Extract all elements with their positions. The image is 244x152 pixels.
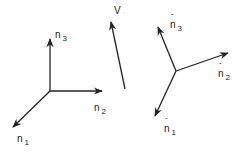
- n1hat-symbol: n: [164, 124, 170, 134]
- vector-frames-diagram: n3 n2 n1 V n3 n2 n1: [0, 0, 244, 152]
- v-label: V: [114, 6, 121, 16]
- n3-label: n3: [55, 30, 67, 40]
- n2-symbol: n: [94, 102, 100, 113]
- n3hat-subscript: 3: [178, 24, 182, 33]
- n1-arrow: [13, 91, 50, 127]
- n3-subscript: 3: [63, 34, 67, 43]
- n2hat-symbol: n: [218, 69, 224, 79]
- n2-label: n2: [94, 103, 106, 113]
- n3hat-arrow: [158, 27, 176, 71]
- n3-symbol: n: [55, 29, 61, 40]
- n3hat-label: n3: [170, 20, 182, 30]
- original-frame-axes: [13, 39, 102, 127]
- n1hat-arrow: [155, 71, 176, 116]
- n1hat-subscript: 1: [172, 128, 176, 137]
- n1-label: n1: [17, 134, 29, 144]
- n1-subscript: 1: [25, 138, 29, 147]
- diagram-arrows: [0, 0, 244, 152]
- n2-subscript: 2: [102, 107, 106, 116]
- n2hat-subscript: 2: [226, 73, 230, 82]
- n1-symbol: n: [17, 133, 23, 144]
- n1hat-label: n1: [164, 124, 176, 134]
- n3hat-symbol: n: [170, 20, 176, 30]
- n2hat-label: n2: [218, 69, 230, 79]
- v-arrow: [111, 22, 125, 89]
